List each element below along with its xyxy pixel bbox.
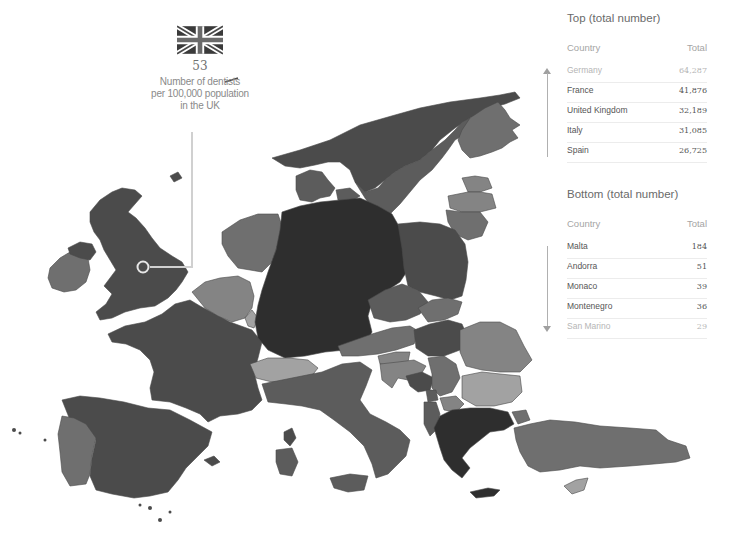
island-dot (139, 504, 142, 507)
callout-label-line: Number of dentists (130, 76, 270, 88)
table-row[interactable]: France 41,876 (567, 83, 707, 103)
row-country: Monaco (567, 279, 597, 298)
row-country: Italy (567, 123, 583, 142)
bottom-table-panel: Bottom (total number) Country Total Malt… (567, 188, 707, 339)
row-total: 26,725 (679, 143, 707, 162)
arrow-up-line (547, 73, 548, 157)
arrow-down-line (547, 246, 548, 326)
country-latvia[interactable] (448, 192, 496, 212)
callout-label-line: in the UK (130, 100, 270, 112)
country-montenegro[interactable] (426, 390, 438, 402)
table-row[interactable]: Monaco 39 (567, 279, 707, 299)
row-country: Andorra (567, 259, 597, 278)
country-sicily[interactable] (330, 474, 368, 492)
callout-pin-icon[interactable] (138, 262, 149, 273)
row-total: 36 (697, 299, 707, 318)
uk-flag-icon (177, 25, 223, 55)
country-greece-crete[interactable] (470, 488, 500, 498)
row-country: Montenegro (567, 299, 612, 318)
table-row[interactable]: Spain 26,725 (567, 143, 707, 163)
row-country: France (567, 83, 593, 102)
island-dot (158, 518, 162, 522)
column-header-total: Total (687, 42, 707, 53)
country-bulgaria[interactable] (462, 372, 522, 406)
column-header-country: Country (567, 218, 600, 229)
row-country: Spain (567, 143, 589, 162)
uk-callout: 53 Number of dentists per 100,000 popula… (130, 25, 270, 112)
row-total: 184 (692, 239, 707, 258)
row-total: 51 (697, 259, 707, 278)
island-dot (44, 439, 47, 442)
callout-label: Number of dentists per 100,000 populatio… (130, 76, 270, 112)
table-row[interactable]: United Kingdom 32,189 (567, 103, 707, 123)
row-total: 29 (697, 319, 707, 338)
island-dot (19, 432, 22, 435)
country-cyprus[interactable] (564, 478, 588, 494)
arrow-down-icon (543, 326, 551, 332)
table-row[interactable]: San Marino 29 (567, 319, 707, 339)
callout-value: 53 (130, 59, 270, 73)
row-country: Malta (567, 239, 588, 258)
bottom-table-header: Country Total (567, 218, 707, 229)
row-country: San Marino (567, 319, 610, 338)
row-total: 32,189 (679, 103, 707, 122)
country-faroe[interactable] (170, 172, 182, 182)
island-dot (12, 428, 16, 432)
top-table-panel: Top (total number) Country Total Germany… (567, 12, 707, 163)
row-total: 31,085 (679, 123, 707, 142)
country-turkey[interactable] (514, 420, 690, 472)
country-balearic-islands[interactable] (204, 456, 220, 466)
country-greece[interactable] (434, 408, 514, 478)
row-country: United Kingdom (567, 103, 627, 122)
country-turkey-thrace[interactable] (512, 410, 530, 424)
country-united-kingdom[interactable] (90, 188, 188, 320)
country-denmark[interactable] (296, 170, 335, 202)
row-total: 41,876 (679, 83, 707, 102)
bottom-table-title: Bottom (total number) (567, 188, 707, 200)
country-romania[interactable] (460, 322, 532, 372)
table-row[interactable]: Montenegro 36 (567, 299, 707, 319)
callout-label-line: per 100,000 population (130, 88, 270, 100)
top-table-header: Country Total (567, 42, 707, 53)
country-corsica[interactable] (284, 428, 296, 446)
row-total: 64,287 (679, 63, 707, 82)
island-dot (148, 506, 152, 510)
table-row[interactable]: Andorra 51 (567, 259, 707, 279)
country-sardinia[interactable] (276, 448, 298, 476)
table-row[interactable]: Italy 31,085 (567, 123, 707, 143)
row-total: 39 (697, 279, 707, 298)
country-bosnia[interactable] (406, 372, 434, 392)
country-estonia[interactable] (462, 176, 492, 192)
column-header-total: Total (687, 218, 707, 229)
island-dot (169, 511, 172, 514)
row-country: Germany (567, 63, 602, 82)
column-header-country: Country (567, 42, 600, 53)
top-table-title: Top (total number) (567, 12, 707, 24)
table-row[interactable]: Germany 64,287 (567, 63, 707, 83)
table-row[interactable]: Malta 184 (567, 239, 707, 259)
